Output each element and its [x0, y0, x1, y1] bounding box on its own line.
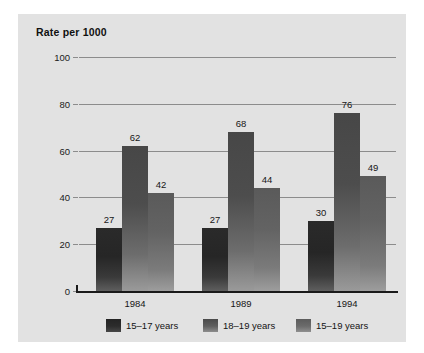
legend-item-1[interactable]: 18–19 years: [203, 318, 275, 332]
y-tick-label-100: 100: [54, 52, 70, 63]
legend-swatch-icon: [106, 319, 121, 332]
bar-value-label: 62: [130, 132, 141, 143]
x-axis-baseline: [76, 291, 398, 293]
bar-value-label: 68: [236, 118, 247, 129]
y-tick-label-60: 60: [59, 145, 70, 156]
bar: [122, 146, 148, 291]
y-tick-mark-40: [73, 197, 78, 198]
chart-title: Rate per 1000: [36, 26, 107, 38]
y-tick-mark-60: [73, 151, 78, 152]
bar-value-label: 49: [368, 162, 379, 173]
legend-item-2[interactable]: 15–19 years: [296, 318, 368, 332]
bar: [334, 113, 360, 291]
legend-item-0[interactable]: 15–17 years: [106, 318, 178, 332]
bar: [96, 228, 122, 291]
legend-label: 18–19 years: [223, 320, 275, 331]
bar-value-label: 42: [156, 179, 167, 190]
gridline-100: [79, 57, 396, 58]
bar: [202, 228, 228, 291]
y-tick-label-0: 0: [65, 286, 70, 297]
bar: [228, 132, 254, 291]
legend-label: 15–19 years: [316, 320, 368, 331]
legend-swatch-icon: [296, 319, 311, 332]
y-tick-label-40: 40: [59, 192, 70, 203]
bar: [360, 176, 386, 291]
y-tick-label-80: 80: [59, 98, 70, 109]
bar-value-label: 27: [104, 214, 115, 225]
legend-label: 15–17 years: [126, 320, 178, 331]
x-tick-label-1989: 1989: [230, 298, 251, 309]
y-tick-mark-80: [73, 104, 78, 105]
bar: [308, 221, 334, 291]
x-tick-label-1994: 1994: [336, 298, 357, 309]
x-tick-label-1984: 1984: [124, 298, 145, 309]
y-tick-mark-20: [73, 244, 78, 245]
bar-value-label: 76: [342, 99, 353, 110]
bar: [254, 188, 280, 291]
chart-legend: 15–17 years18–19 years15–19 years: [79, 318, 396, 334]
legend-swatch-icon: [203, 319, 218, 332]
chart-screenshot: Rate per 1000 020406080100 2762422768443…: [0, 0, 424, 353]
y-tick-mark-100: [73, 57, 78, 58]
bar-value-label: 44: [262, 174, 273, 185]
bar: [148, 193, 174, 291]
bar-value-label: 30: [316, 207, 327, 218]
y-tick-label-20: 20: [59, 239, 70, 250]
bar-value-label: 27: [210, 214, 221, 225]
plot-area: 020406080100 276242276844307649 19841989…: [79, 57, 396, 291]
